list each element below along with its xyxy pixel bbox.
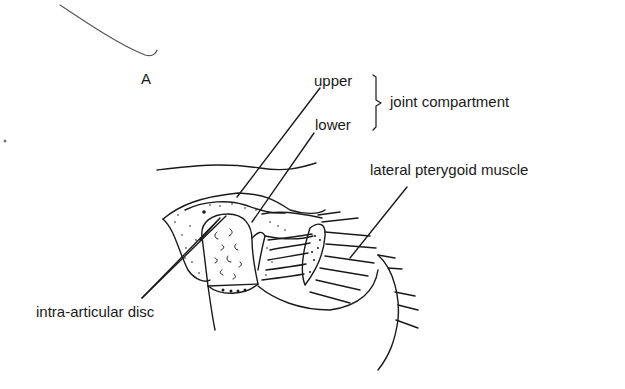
condyle	[202, 214, 258, 286]
diagram-canvas: A upper lower joint compartment lateral …	[0, 0, 625, 389]
stipple-insertion	[309, 235, 321, 273]
label-intra-articular-disc: intra-articular disc	[36, 304, 154, 319]
bracket	[373, 75, 381, 130]
leader-lower	[252, 133, 314, 222]
fossa-outer	[163, 193, 325, 219]
speck	[4, 140, 7, 143]
fossa-inner	[185, 202, 285, 213]
label-upper: upper	[314, 73, 352, 88]
condyle-neck	[208, 286, 215, 330]
stray-curve	[60, 5, 157, 56]
label-lateral-pterygoid-muscle: lateral pterygoid muscle	[370, 162, 528, 177]
trabecular-marks	[215, 229, 242, 279]
muscle-fibers-inner	[262, 234, 312, 280]
leader-muscle	[350, 187, 407, 258]
panel-label: A	[141, 71, 151, 86]
pterygoid-plate	[378, 255, 398, 370]
pterygoid-insertion	[303, 224, 326, 285]
label-joint-compartment: joint compartment	[390, 94, 509, 109]
label-lower: lower	[315, 117, 351, 132]
tmj-line-drawing	[0, 0, 625, 389]
